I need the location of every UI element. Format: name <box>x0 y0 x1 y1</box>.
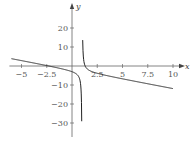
curve-right-branch <box>83 40 173 88</box>
x-tick-label: 10 <box>168 70 178 79</box>
x-tick-label: 5 <box>120 70 125 79</box>
y-tick-label: −20 <box>51 100 68 109</box>
ticks: −5−2.52.557.5102010−10−20−30 <box>16 24 178 128</box>
y-tick-label: −30 <box>51 119 68 128</box>
y-tick-label: −10 <box>51 81 68 90</box>
x-axis-label: x <box>185 62 190 71</box>
curve-left-branch <box>11 59 81 122</box>
y-axis-label: y <box>75 2 81 11</box>
x-tick-label: −2.5 <box>37 70 56 79</box>
y-tick-label: 10 <box>58 43 68 52</box>
y-axis-arrow-icon <box>70 3 74 9</box>
x-tick-label: 7.5 <box>141 70 154 79</box>
chart: −5−2.52.557.5102010−10−20−30 x y <box>0 0 191 141</box>
x-tick-label: −5 <box>16 70 28 79</box>
y-tick-label: 20 <box>58 24 68 33</box>
curves <box>11 40 173 121</box>
